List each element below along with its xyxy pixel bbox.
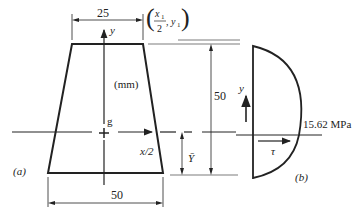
units-label: (mm) — [114, 78, 139, 91]
svg-text:,: , — [166, 16, 169, 27]
figure-a-label: (a) — [13, 165, 26, 178]
svg-text:x: x — [154, 8, 160, 19]
y-axis-label: y — [109, 24, 115, 36]
ybar-dimension — [180, 132, 184, 175]
x-axis-label: x/2 — [139, 145, 154, 157]
bottom-width-label: 50 — [111, 188, 123, 202]
stress-y-label: y — [238, 82, 244, 94]
centroid-label: g — [107, 115, 113, 127]
figure-b-label: (b) — [295, 171, 308, 184]
bottom-dimension — [48, 177, 163, 207]
shear-stress-diagram: 25 y ( x 1 2 , y 1 ) (mm) g x/2 (a) 50 5… — [0, 0, 361, 218]
svg-text:2: 2 — [157, 23, 162, 34]
height-label: 50 — [214, 89, 226, 103]
svg-text:(: ( — [146, 3, 155, 32]
ybar-label: Ȳ — [188, 152, 196, 164]
svg-text:1: 1 — [161, 13, 165, 21]
top-width-label: 25 — [97, 6, 109, 20]
point-label: ( x 1 2 , y 1 ) — [146, 3, 190, 34]
svg-text:y: y — [170, 16, 176, 27]
centroid-marker — [99, 128, 109, 138]
svg-text:): ) — [181, 3, 190, 32]
tau-label: τ — [271, 145, 276, 157]
stress-distribution — [236, 46, 322, 178]
max-stress-label: 15.62 MPa — [303, 118, 351, 130]
